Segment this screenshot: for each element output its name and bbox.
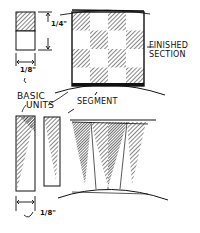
height-dimension-label: 1/4" xyxy=(51,20,67,28)
width-dimension-bottom-label: 1/8" xyxy=(40,209,56,217)
basic-square-unit xyxy=(16,12,35,50)
finished-section-label-line1: FINISHED xyxy=(149,41,188,50)
height-dimension xyxy=(38,12,52,50)
diagram-drawing xyxy=(0,0,200,233)
width-dimension-top-label: 1/8" xyxy=(20,66,36,74)
segment-label: SEGMENT xyxy=(77,97,118,106)
basic-unit-wedge-2 xyxy=(44,117,60,186)
width-dimension-bottom xyxy=(16,196,35,217)
segment-pointer xyxy=(95,92,97,95)
basic-units-label-line2: UNITS xyxy=(26,101,54,110)
segment-assembly xyxy=(58,120,168,200)
segment-pointer-2 xyxy=(68,109,74,113)
basic-unit-wedge-1 xyxy=(16,116,35,191)
finished-section-label-line2: SECTION xyxy=(149,50,186,59)
woodworking-diagram: 1/4" 1/8" 1/8" FINISHED SECTION BASIC UN… xyxy=(0,0,200,233)
